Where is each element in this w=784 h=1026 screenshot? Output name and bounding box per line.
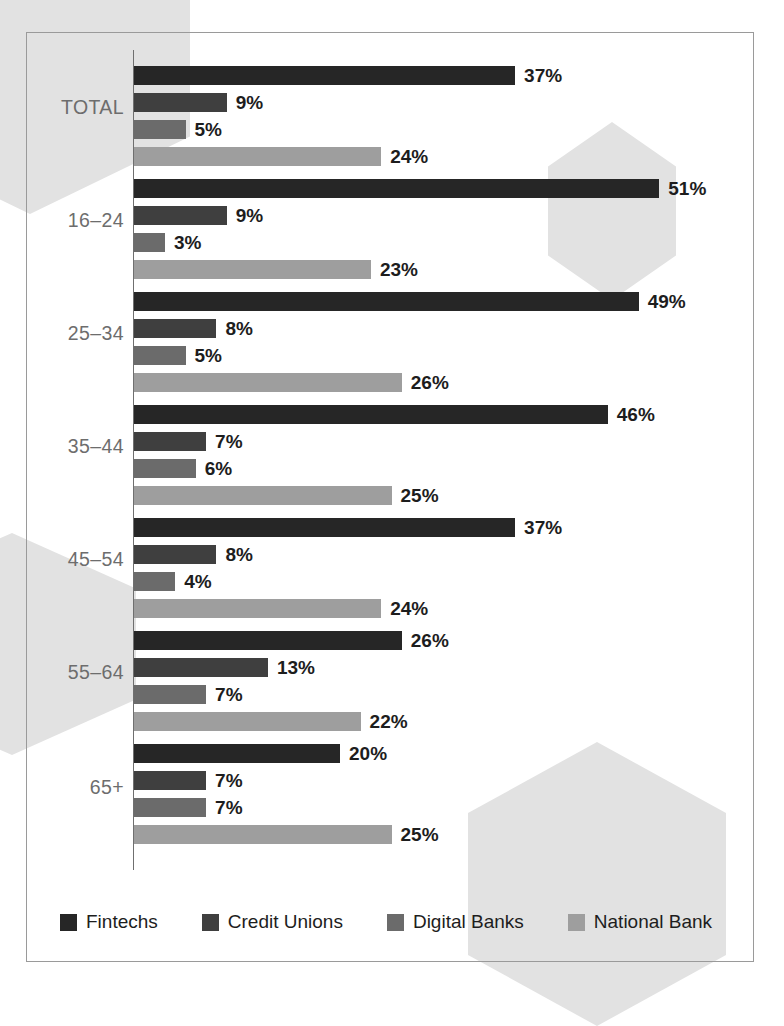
bar-row: 9% bbox=[134, 204, 754, 227]
chart-group: 45–5437%8%4%24% bbox=[26, 502, 754, 615]
bar bbox=[134, 631, 402, 650]
bar-value-label: 9% bbox=[236, 93, 263, 112]
bar bbox=[134, 432, 206, 451]
bar-value-label: 7% bbox=[215, 432, 242, 451]
bar-row: 20% bbox=[134, 742, 754, 765]
bar-row: 8% bbox=[134, 543, 754, 566]
legend-item[interactable]: National Bank bbox=[568, 911, 712, 933]
bar-row: 51% bbox=[134, 177, 754, 200]
bar-value-label: 49% bbox=[648, 292, 686, 311]
category-label: 45–54 bbox=[26, 547, 124, 570]
bar-value-label: 51% bbox=[668, 179, 706, 198]
bar-value-label: 25% bbox=[401, 825, 439, 844]
bar bbox=[134, 319, 216, 338]
legend-item[interactable]: Fintechs bbox=[60, 911, 158, 933]
category-label: 16–24 bbox=[26, 208, 124, 231]
bar bbox=[134, 66, 515, 85]
category-label: 55–64 bbox=[26, 660, 124, 683]
bar bbox=[134, 206, 227, 225]
bar bbox=[134, 685, 206, 704]
chart-groups: TOTAL37%9%5%24%16–2451%9%3%23%25–3449%8%… bbox=[26, 50, 754, 846]
bar bbox=[134, 771, 206, 790]
legend-item[interactable]: Credit Unions bbox=[202, 911, 343, 933]
bar-row: 5% bbox=[134, 118, 754, 141]
bar-row: 37% bbox=[134, 64, 754, 87]
bar-group: 46%7%6%25% bbox=[134, 403, 754, 507]
bar-value-label: 6% bbox=[205, 459, 232, 478]
legend-item[interactable]: Digital Banks bbox=[387, 911, 524, 933]
bar-value-label: 5% bbox=[195, 120, 222, 139]
bar-row: 7% bbox=[134, 683, 754, 706]
bar-row: 49% bbox=[134, 290, 754, 313]
bar-row: 7% bbox=[134, 769, 754, 792]
bar bbox=[134, 459, 196, 478]
bar-value-label: 46% bbox=[617, 405, 655, 424]
bar-row: 9% bbox=[134, 91, 754, 114]
legend-label: Fintechs bbox=[86, 911, 158, 933]
bar-row: 7% bbox=[134, 430, 754, 453]
bar bbox=[134, 93, 227, 112]
bar bbox=[134, 518, 515, 537]
bar bbox=[134, 346, 186, 365]
bar-value-label: 37% bbox=[524, 66, 562, 85]
bar bbox=[134, 233, 165, 252]
category-label: 65+ bbox=[26, 776, 124, 799]
chart-group: TOTAL37%9%5%24% bbox=[26, 50, 754, 163]
bar-row: 25% bbox=[134, 823, 754, 846]
bar-row: 6% bbox=[134, 457, 754, 480]
bar-value-label: 8% bbox=[225, 319, 252, 338]
bar bbox=[134, 120, 186, 139]
bar-row: 37% bbox=[134, 516, 754, 539]
bar-value-label: 26% bbox=[411, 631, 449, 650]
chart-group: 65+20%7%7%25% bbox=[26, 728, 754, 846]
bar-row: 3% bbox=[134, 231, 754, 254]
bar-row: 5% bbox=[134, 344, 754, 367]
legend-label: Credit Unions bbox=[228, 911, 343, 933]
chart-group: 35–4446%7%6%25% bbox=[26, 389, 754, 502]
bar-row: 4% bbox=[134, 570, 754, 593]
legend-swatch-icon bbox=[202, 914, 219, 931]
category-label: 35–44 bbox=[26, 434, 124, 457]
legend-label: National Bank bbox=[594, 911, 712, 933]
bar bbox=[134, 405, 608, 424]
chart-group: 16–2451%9%3%23% bbox=[26, 163, 754, 276]
bar-row: 8% bbox=[134, 317, 754, 340]
bar-value-label: 20% bbox=[349, 744, 387, 763]
bar-row: 13% bbox=[134, 656, 754, 679]
bar bbox=[134, 545, 216, 564]
bar-value-label: 3% bbox=[174, 233, 201, 252]
bar-value-label: 13% bbox=[277, 658, 315, 677]
bar-value-label: 7% bbox=[215, 685, 242, 704]
bar bbox=[134, 798, 206, 817]
bar-value-label: 5% bbox=[195, 346, 222, 365]
bar-group: 20%7%7%25% bbox=[134, 742, 754, 846]
bar-value-label: 37% bbox=[524, 518, 562, 537]
bar-group: 51%9%3%23% bbox=[134, 177, 754, 281]
bar-group: 37%9%5%24% bbox=[134, 64, 754, 168]
legend-label: Digital Banks bbox=[413, 911, 524, 933]
bar-value-label: 7% bbox=[215, 798, 242, 817]
bar-chart: TOTAL37%9%5%24%16–2451%9%3%23%25–3449%8%… bbox=[26, 32, 754, 962]
bar bbox=[134, 744, 340, 763]
bar bbox=[134, 825, 392, 844]
bar bbox=[134, 292, 639, 311]
chart-group: 25–3449%8%5%26% bbox=[26, 276, 754, 389]
chart-group: 55–6426%13%7%22% bbox=[26, 615, 754, 728]
category-label: 25–34 bbox=[26, 321, 124, 344]
bar bbox=[134, 572, 175, 591]
bar-value-label: 4% bbox=[184, 572, 211, 591]
bar bbox=[134, 179, 659, 198]
bar-value-label: 7% bbox=[215, 771, 242, 790]
bar-group: 49%8%5%26% bbox=[134, 290, 754, 394]
bar-value-label: 8% bbox=[225, 545, 252, 564]
legend-swatch-icon bbox=[60, 914, 77, 931]
bar-row: 7% bbox=[134, 796, 754, 819]
bar-row: 26% bbox=[134, 629, 754, 652]
chart-legend: FintechsCredit UnionsDigital BanksNation… bbox=[26, 900, 754, 944]
bar-group: 37%8%4%24% bbox=[134, 516, 754, 620]
bar-value-label: 9% bbox=[236, 206, 263, 225]
bar-group: 26%13%7%22% bbox=[134, 629, 754, 733]
bar bbox=[134, 658, 268, 677]
category-label: TOTAL bbox=[26, 95, 124, 118]
legend-swatch-icon bbox=[568, 914, 585, 931]
